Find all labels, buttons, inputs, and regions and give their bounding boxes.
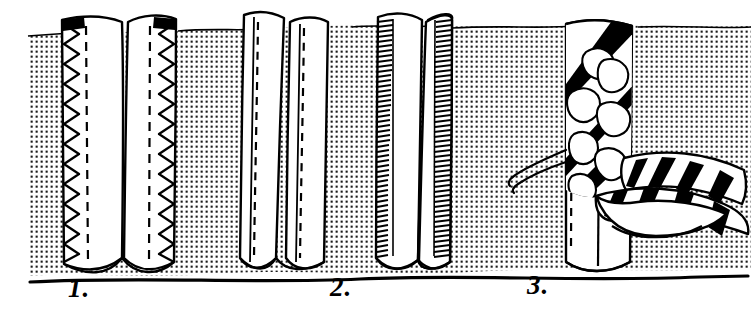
seam-allowance-left-2b [376, 13, 422, 268]
stitch-line-dashed [149, 26, 150, 262]
seam-allowance-left-1 [62, 16, 123, 269]
seam-allowance-right-1 [124, 15, 176, 269]
seam-finish-diagram [0, 0, 751, 311]
panel-2-dense-overcast [376, 13, 452, 268]
baseline-rule [30, 276, 748, 282]
seam-allowance-right-2a [286, 18, 328, 269]
seam-allowance-left-2a [240, 12, 284, 268]
illustration-canvas: 1. 2. 3. [0, 0, 751, 311]
panel-label-3: 3. [527, 272, 549, 299]
panel-label-2: 2. [330, 274, 352, 301]
panel-1-zigzag-overcast [62, 15, 176, 272]
panel-label-1: 1. [68, 275, 90, 302]
